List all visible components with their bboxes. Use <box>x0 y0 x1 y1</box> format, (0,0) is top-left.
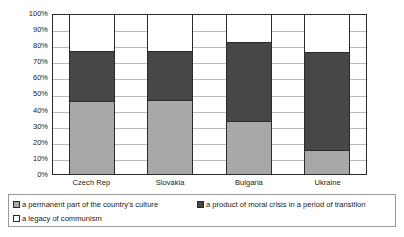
legend-swatch-icon <box>13 215 20 222</box>
legend-item-moral-crisis[interactable]: a product of moral crisis in a period of… <box>197 197 366 211</box>
bar-slot-slovakia <box>131 15 209 174</box>
legend-swatch-icon <box>13 201 20 208</box>
bar-segment-permanent <box>148 101 192 174</box>
bar-segment-legacy-communism <box>305 15 349 53</box>
x-axis: Czech Rep Slovakia Bulgaria Ukraine <box>52 178 367 190</box>
bar-slot-czech-rep <box>53 15 131 174</box>
legend-item-legacy-communism[interactable]: a legacy of communism <box>13 211 102 225</box>
y-axis-tick: 40% <box>4 107 48 115</box>
bars-layer <box>53 15 366 174</box>
bar-bulgaria[interactable] <box>226 15 272 174</box>
legend-item-permanent[interactable]: a permanent part of the country's cultur… <box>13 197 158 211</box>
bar-ukraine[interactable] <box>304 15 350 174</box>
y-axis-tick: 80% <box>4 42 48 50</box>
x-axis-tick-slovakia: Slovakia <box>131 178 210 190</box>
stacked-bar-chart: 100% 90% 80% 70% 60% 50% 40% 30% 20% 10%… <box>0 0 404 237</box>
y-axis-tick: 30% <box>4 123 48 131</box>
x-axis-tick-czech-rep: Czech Rep <box>52 178 131 190</box>
legend-row: a legacy of communism <box>9 211 395 225</box>
y-axis-tick: 60% <box>4 74 48 82</box>
bar-czech-rep[interactable] <box>69 15 115 174</box>
bar-segment-permanent <box>70 102 114 174</box>
bar-segment-permanent <box>227 122 271 174</box>
legend-row: a permanent part of the country's cultur… <box>9 197 395 211</box>
y-axis-tick: 0% <box>4 171 48 179</box>
bar-slot-bulgaria <box>210 15 288 174</box>
bar-segment-permanent <box>305 151 349 174</box>
x-axis-tick-ukraine: Ukraine <box>288 178 367 190</box>
y-axis-tick: 50% <box>4 90 48 98</box>
y-axis-tick: 90% <box>4 26 48 34</box>
legend: a permanent part of the country's cultur… <box>8 194 396 227</box>
legend-item-label: a permanent part of the country's cultur… <box>22 200 158 209</box>
bar-segment-moral-crisis <box>227 43 271 122</box>
plot-area <box>52 14 367 175</box>
bar-segment-moral-crisis <box>305 53 349 151</box>
y-axis-tick: 70% <box>4 58 48 66</box>
bar-segment-moral-crisis <box>148 52 192 101</box>
y-axis-tick: 10% <box>4 155 48 163</box>
bar-segment-legacy-communism <box>227 15 271 43</box>
bar-segment-legacy-communism <box>70 15 114 52</box>
legend-item-label: a product of moral crisis in a period of… <box>206 200 366 209</box>
x-axis-tick-bulgaria: Bulgaria <box>210 178 289 190</box>
y-axis-tick: 20% <box>4 139 48 147</box>
y-axis-tick: 100% <box>4 10 48 18</box>
bar-slovakia[interactable] <box>147 15 193 174</box>
bar-segment-moral-crisis <box>70 52 114 102</box>
bar-segment-legacy-communism <box>148 15 192 52</box>
legend-swatch-icon <box>197 201 204 208</box>
bar-slot-ukraine <box>288 15 366 174</box>
legend-item-label: a legacy of communism <box>22 214 102 223</box>
